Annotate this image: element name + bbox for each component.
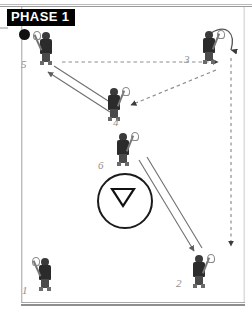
lacrosse-phase-diagram: PHASE 1 [0, 0, 252, 327]
player-figure-1 [32, 258, 58, 292]
player-number-6: 6 [98, 159, 104, 171]
player-foot-left [193, 284, 197, 288]
player-figure-5 [33, 32, 59, 66]
player-number-3: 3 [184, 53, 190, 65]
player-foot-left [39, 287, 43, 291]
player-number-5: 5 [21, 58, 27, 70]
down-triangle-inner [114, 190, 132, 204]
player-number-4: 4 [113, 116, 119, 128]
player-foot-right [201, 284, 205, 288]
player-foot-left [108, 117, 112, 121]
stick-head-icon [131, 132, 139, 141]
arrow-pass-3-to-4 [131, 70, 216, 105]
stick-head-icon [122, 87, 130, 96]
player-foot-right [47, 287, 51, 291]
player-foot-left [40, 61, 44, 65]
player-foot-right [48, 61, 52, 65]
stick-head-icon [207, 254, 215, 263]
player-foot-left [117, 162, 121, 166]
player-figure-6 [110, 133, 136, 167]
player-figure-2 [186, 255, 212, 289]
player-foot-right [125, 162, 129, 166]
stick-head-icon [32, 257, 40, 266]
player-number-2: 2 [176, 277, 182, 289]
player-foot-left [203, 60, 207, 64]
player-figure-3 [196, 31, 222, 65]
player-foot-right [211, 60, 215, 64]
player-torso [40, 39, 52, 54]
stick-head-icon [217, 30, 225, 39]
player-number-1: 1 [22, 284, 28, 296]
player-torso [39, 265, 51, 280]
stick-head-icon [33, 31, 41, 40]
